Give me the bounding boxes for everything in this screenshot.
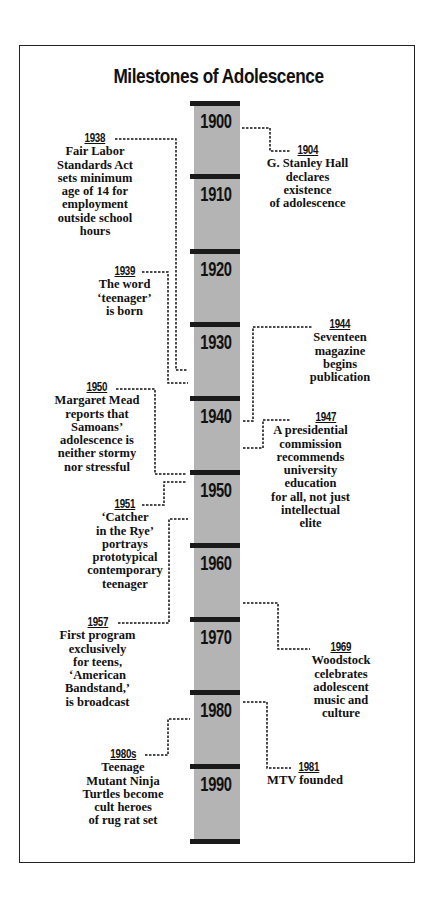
event-year: 1950 xyxy=(87,380,108,394)
event-line: ‘teenager’ xyxy=(92,292,157,305)
decade-bar-1950 xyxy=(190,470,240,475)
decade-bar-1960 xyxy=(190,543,240,548)
event-line: cult heroes xyxy=(77,801,169,814)
event-line: is born xyxy=(92,305,157,318)
decade-label-1950: 1950 xyxy=(198,478,234,502)
event-line: reports that xyxy=(52,408,142,421)
event-line: Seventeen xyxy=(305,331,375,344)
decade-bar-1910 xyxy=(190,174,240,179)
decade-label-1910: 1910 xyxy=(198,182,234,206)
event-1947: 1947 A presidential commission recommend… xyxy=(268,410,353,531)
event-line: culture xyxy=(305,707,377,720)
event-line: prototypical xyxy=(85,551,165,564)
decade-label-1940: 1940 xyxy=(198,404,234,428)
event-line: Turtles become xyxy=(77,788,169,801)
diagram-title: Milestones of Adolescence xyxy=(39,64,397,88)
event-line: Woodstock xyxy=(305,654,377,667)
event-line: outside school xyxy=(50,212,140,225)
event-line: Mutant Ninja xyxy=(77,775,169,788)
event-line: teenager xyxy=(85,578,165,591)
event-line: elite xyxy=(268,517,353,530)
event-year: 1939 xyxy=(114,264,135,278)
decade-bar-1940 xyxy=(190,396,240,401)
event-line: of rug rat set xyxy=(77,814,169,827)
event-year: 1947 xyxy=(315,410,336,424)
event-line: MTV founded xyxy=(264,774,346,787)
event-line: for all, not just xyxy=(268,491,353,504)
decade-bar-1920 xyxy=(190,249,240,254)
event-line: Bandstand,’ xyxy=(55,682,140,695)
event-line: age of 14 for xyxy=(50,185,140,198)
event-1950: 1950 Margaret Mead reports that Samoans’… xyxy=(52,380,142,474)
event-year: 1969 xyxy=(331,640,352,654)
event-line: declares xyxy=(265,171,350,184)
event-1938: 1938 Fair Labor Standards Act sets minim… xyxy=(50,131,140,238)
event-line: ‘Catcher xyxy=(85,511,165,524)
event-1980s: 1980s Teenage Mutant Ninja Turtles becom… xyxy=(77,747,169,828)
event-year: 1980s xyxy=(110,747,136,761)
event-1904: 1904 G. Stanley Hall declares existence … xyxy=(265,143,350,210)
event-1951: 1951 ‘Catcher in the Rye’ portrays proto… xyxy=(85,497,165,591)
event-line: adolescent xyxy=(305,681,377,694)
decade-bar-1990 xyxy=(190,764,240,769)
event-line: sets minimum xyxy=(50,172,140,185)
event-1957: 1957 First program exclusively for teens… xyxy=(55,615,140,709)
event-line: contemporary xyxy=(85,564,165,577)
timeline-end-bar xyxy=(190,839,240,844)
event-line: intellectual xyxy=(268,504,353,517)
decade-label-1960: 1960 xyxy=(198,551,234,575)
event-year: 1904 xyxy=(297,143,318,157)
event-line: Standards Act xyxy=(50,159,140,172)
event-line: adolescence is xyxy=(52,434,142,447)
event-line: The word xyxy=(92,278,157,291)
event-1939: 1939 The word ‘teenager’ is born xyxy=(92,264,157,318)
event-line: of adolescence xyxy=(265,197,350,210)
event-line: begins xyxy=(305,358,375,371)
event-1969: 1969 Woodstock celebrates adolescent mus… xyxy=(305,640,377,721)
event-line: A presidential xyxy=(268,424,353,437)
event-line: magazine xyxy=(305,345,375,358)
event-line: Teenage xyxy=(77,761,169,774)
event-line: employment xyxy=(50,198,140,211)
event-line: in the Rye’ xyxy=(85,525,165,538)
event-line: exclusively xyxy=(55,643,140,656)
decade-bar-1970 xyxy=(190,617,240,622)
event-year: 1981 xyxy=(299,760,320,774)
event-line: hours xyxy=(50,225,140,238)
event-line: Samoans’ xyxy=(52,421,142,434)
decade-label-1980: 1980 xyxy=(198,698,234,722)
event-line: university xyxy=(268,464,353,477)
decade-label-1920: 1920 xyxy=(198,257,234,281)
event-line: music and xyxy=(305,694,377,707)
decade-label-1970: 1970 xyxy=(198,625,234,649)
event-line: portrays xyxy=(85,538,165,551)
decade-label-1900: 1900 xyxy=(198,109,234,133)
decade-bar-1980 xyxy=(190,690,240,695)
event-line: education xyxy=(268,477,353,490)
event-line: for teens, xyxy=(55,656,140,669)
event-year: 1944 xyxy=(330,317,351,331)
event-line: neither stormy xyxy=(52,447,142,460)
event-line: publication xyxy=(305,371,375,384)
event-line: Margaret Mead xyxy=(52,394,142,407)
event-1944: 1944 Seventeen magazine begins publicati… xyxy=(305,317,375,384)
event-year: 1938 xyxy=(85,131,106,145)
event-line: nor stressful xyxy=(52,461,142,474)
event-line: celebrates xyxy=(305,668,377,681)
decade-label-1930: 1930 xyxy=(198,330,234,354)
event-line: G. Stanley Hall xyxy=(265,157,350,170)
event-line: existence xyxy=(265,184,350,197)
event-line: is broadcast xyxy=(55,696,140,709)
decade-label-1990: 1990 xyxy=(198,772,234,796)
event-year: 1951 xyxy=(115,497,136,511)
event-line: First program xyxy=(55,629,140,642)
event-1981: 1981 MTV founded xyxy=(264,760,346,788)
event-year: 1957 xyxy=(87,615,108,629)
event-line: commission xyxy=(268,438,353,451)
event-line: Fair Labor xyxy=(50,145,140,158)
decade-bar-1900 xyxy=(190,101,240,106)
event-line: recommends xyxy=(268,451,353,464)
event-line: ‘American xyxy=(55,669,140,682)
decade-bar-1930 xyxy=(190,322,240,327)
